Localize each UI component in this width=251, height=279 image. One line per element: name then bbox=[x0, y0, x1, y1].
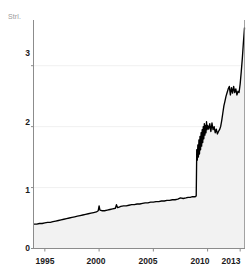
area-fill bbox=[34, 28, 245, 249]
chart-container: Strl. 3 2 1 0 1995 2000 2005 2010 2013 bbox=[0, 0, 251, 279]
plot-area bbox=[0, 0, 251, 279]
